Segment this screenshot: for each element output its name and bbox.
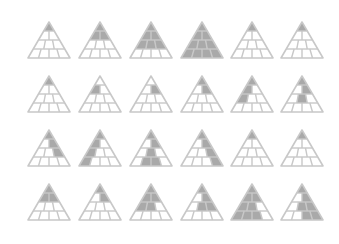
grid-line bbox=[242, 49, 245, 58]
triangle-0-5 bbox=[281, 22, 323, 58]
grid-line bbox=[90, 103, 93, 112]
grid-line bbox=[95, 40, 97, 49]
triangle-1-3 bbox=[181, 76, 223, 112]
triangle-3-1 bbox=[79, 184, 121, 220]
grid-line bbox=[57, 49, 60, 58]
grid-line bbox=[53, 202, 55, 211]
grid-line bbox=[104, 202, 106, 211]
grid-line bbox=[297, 40, 299, 49]
grid-line bbox=[306, 148, 308, 157]
triangle-0-1 bbox=[79, 22, 121, 58]
grid-line bbox=[39, 103, 42, 112]
grid-line bbox=[44, 94, 46, 103]
grid-line bbox=[90, 49, 93, 58]
grid-line bbox=[44, 148, 46, 157]
grid-line bbox=[57, 157, 60, 166]
triangle-2-3 bbox=[181, 130, 223, 166]
triangle-3-2 bbox=[130, 184, 172, 220]
grid-line bbox=[247, 148, 249, 157]
grid-line bbox=[197, 94, 199, 103]
grid-line bbox=[210, 103, 213, 112]
grid-line bbox=[108, 157, 111, 166]
triangle-1-2 bbox=[130, 76, 172, 112]
grid-line bbox=[159, 211, 162, 220]
grid-line bbox=[44, 40, 46, 49]
grid-line bbox=[192, 103, 195, 112]
triangle-0-4 bbox=[231, 22, 273, 58]
grid-line bbox=[141, 211, 144, 220]
grid-line bbox=[53, 40, 55, 49]
grid-line bbox=[95, 94, 97, 103]
triangle-2-4 bbox=[231, 130, 273, 166]
grid-line bbox=[292, 157, 295, 166]
grid-line bbox=[310, 157, 313, 166]
grid-line bbox=[95, 202, 97, 211]
grid-line bbox=[310, 49, 313, 58]
grid-line bbox=[292, 103, 295, 112]
triangle-2-2 bbox=[130, 130, 172, 166]
grid-line bbox=[57, 103, 60, 112]
grid-line bbox=[310, 103, 313, 112]
triangle-3-4 bbox=[231, 184, 273, 220]
grid-line bbox=[256, 148, 258, 157]
triangle-1-4 bbox=[231, 76, 273, 112]
triangle-3-5 bbox=[281, 184, 323, 220]
triangle-1-5 bbox=[281, 76, 323, 112]
grid-line bbox=[108, 211, 111, 220]
grid-line bbox=[146, 94, 148, 103]
grid-line bbox=[292, 211, 295, 220]
grid-line bbox=[197, 148, 199, 157]
triangles-svg bbox=[0, 0, 339, 244]
triangle-1-0 bbox=[28, 76, 70, 112]
grid-line bbox=[306, 40, 308, 49]
grid-line bbox=[159, 103, 162, 112]
triangle-0-0 bbox=[28, 22, 70, 58]
triangle-2-5 bbox=[281, 130, 323, 166]
triangle-0-2 bbox=[130, 22, 172, 58]
grid-line bbox=[206, 94, 208, 103]
triangle-1-1 bbox=[79, 76, 121, 112]
grid-line bbox=[39, 157, 42, 166]
triangle-3-0 bbox=[28, 184, 70, 220]
grid-line bbox=[256, 94, 258, 103]
grid-line bbox=[104, 148, 106, 157]
grid-line bbox=[53, 94, 55, 103]
triangle-2-0 bbox=[28, 130, 70, 166]
grid-line bbox=[210, 211, 213, 220]
grid-line bbox=[260, 103, 263, 112]
grid-line bbox=[297, 148, 299, 157]
grid-line bbox=[108, 49, 111, 58]
grid-line bbox=[242, 157, 245, 166]
grid-line bbox=[57, 211, 60, 220]
grid-line bbox=[192, 211, 195, 220]
grid-line bbox=[292, 49, 295, 58]
grid-line bbox=[159, 49, 162, 58]
grid-line bbox=[256, 40, 258, 49]
triangle-0-3 bbox=[181, 22, 223, 58]
grid-line bbox=[39, 211, 42, 220]
triangle-grid-figure bbox=[0, 0, 339, 244]
grid-line bbox=[247, 40, 249, 49]
grid-line bbox=[104, 94, 106, 103]
grid-line bbox=[260, 49, 263, 58]
grid-line bbox=[108, 103, 111, 112]
grid-line bbox=[141, 103, 144, 112]
grid-line bbox=[155, 94, 157, 103]
grid-line bbox=[242, 103, 245, 112]
grid-line bbox=[44, 202, 46, 211]
grid-line bbox=[39, 49, 42, 58]
grid-line bbox=[192, 157, 195, 166]
triangle-3-3 bbox=[181, 184, 223, 220]
triangle-2-1 bbox=[79, 130, 121, 166]
grid-line bbox=[90, 211, 93, 220]
grid-line bbox=[141, 49, 144, 58]
grid-line bbox=[260, 157, 263, 166]
grid-line bbox=[104, 40, 106, 49]
